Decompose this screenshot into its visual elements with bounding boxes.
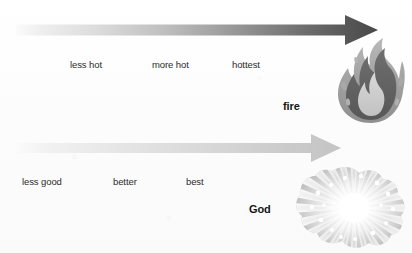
tick-label-better: better bbox=[113, 176, 137, 187]
god-goodness-scale: less good better best God bbox=[0, 126, 412, 253]
tick-label-less-good: less good bbox=[22, 176, 62, 187]
tick-label-hottest: hottest bbox=[232, 59, 260, 70]
diagram-canvas: less hot more hot hottest fire bbox=[0, 0, 412, 253]
fire-label: fire bbox=[283, 100, 300, 112]
fire-heat-scale: less hot more hot hottest fire bbox=[0, 0, 412, 126]
tick-label-best: best bbox=[186, 176, 204, 187]
god-label: God bbox=[249, 203, 271, 215]
flame-icon bbox=[331, 36, 411, 126]
tick-label-less-hot: less hot bbox=[70, 59, 102, 70]
tick-label-more-hot: more hot bbox=[152, 59, 189, 70]
radiant-burst-icon bbox=[291, 163, 411, 253]
